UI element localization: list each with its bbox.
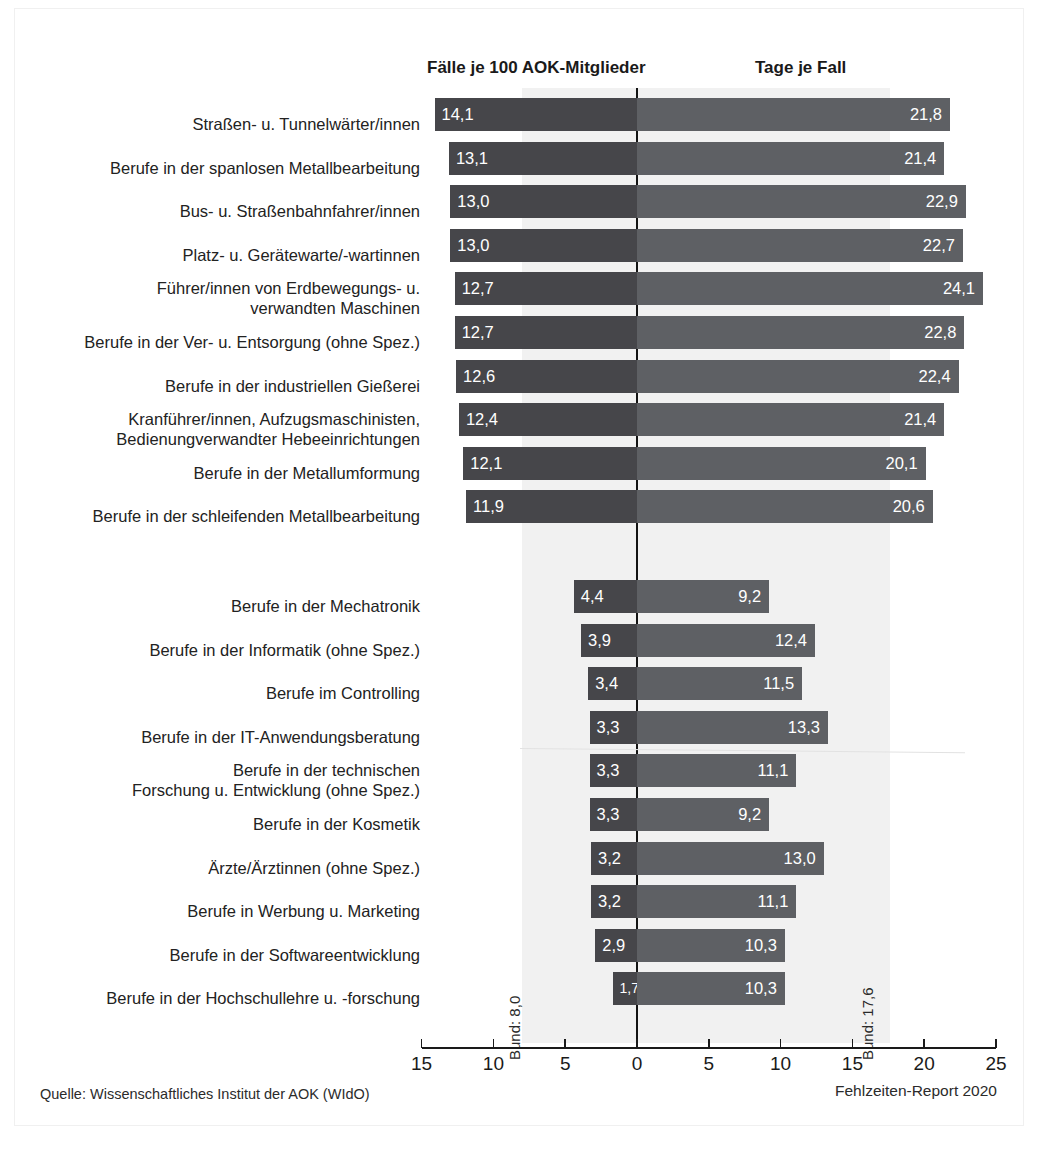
bar-segment-faelle: 12,6 <box>456 360 637 393</box>
row-category-label: Berufe in der technischen Forschung u. E… <box>0 760 420 800</box>
bar-value-tage: 21,4 <box>904 403 936 436</box>
diverging-bar: 3,912,4 <box>581 624 815 657</box>
axis-tick-label: 15 <box>832 1053 872 1075</box>
bar-value-tage: 13,3 <box>788 711 820 744</box>
bar-value-faelle: 3,3 <box>597 711 620 744</box>
diverging-bar: 13,022,7 <box>450 229 963 262</box>
bar-value-tage: 22,9 <box>926 185 958 218</box>
bar-segment-faelle: 3,2 <box>591 842 637 875</box>
bar-segment-faelle: 12,1 <box>463 447 637 480</box>
axis-tick-label: 10 <box>761 1053 801 1075</box>
bar-segment-faelle: 3,3 <box>590 798 637 831</box>
bar-value-tage: 11,1 <box>757 754 788 787</box>
axis-tick-label: 5 <box>689 1053 729 1075</box>
bar-segment-faelle: 3,2 <box>591 885 637 918</box>
bar-value-faelle: 13,1 <box>456 142 488 175</box>
bar-value-faelle: 13,0 <box>457 229 489 262</box>
bar-value-tage: 22,8 <box>924 316 956 349</box>
axis-tick <box>780 1039 782 1048</box>
bar-segment-tage: 22,9 <box>637 185 966 218</box>
row-category-label: Berufe in der schleifenden Metallbearbei… <box>0 506 420 526</box>
bar-value-faelle: 14,1 <box>442 98 474 131</box>
plot-area: Straßen- u. Tunnelwärter/innen14,121,8Be… <box>0 88 1041 1043</box>
bar-value-faelle: 13,0 <box>457 185 489 218</box>
axis-tick <box>421 1039 423 1048</box>
bar-value-faelle: 3,9 <box>588 624 611 657</box>
row-category-label: Ärzte/Ärztinnen (ohne Spez.) <box>0 858 420 878</box>
bar-value-faelle: 12,6 <box>463 360 495 393</box>
axis-tick-label: 5 <box>545 1053 585 1075</box>
diverging-bar: 13,121,4 <box>449 142 944 175</box>
axis-tick <box>636 1039 638 1048</box>
bar-value-tage: 21,8 <box>910 98 942 131</box>
bar-value-tage: 10,3 <box>745 972 777 1005</box>
bar-value-faelle: 11,9 <box>473 490 504 523</box>
bar-value-tage: 20,1 <box>885 447 917 480</box>
bar-value-tage: 20,6 <box>893 490 925 523</box>
axis-tick-label: 25 <box>976 1053 1016 1075</box>
bar-segment-faelle: 13,0 <box>450 185 637 218</box>
row-category-label: Berufe in der Metallumformung <box>0 463 420 483</box>
bar-value-faelle: 3,3 <box>597 798 620 831</box>
row-category-label: Berufe im Controlling <box>0 683 420 703</box>
diverging-bar: 12,622,4 <box>456 360 959 393</box>
diverging-bar: 12,722,8 <box>455 316 965 349</box>
bar-segment-tage: 21,4 <box>637 142 944 175</box>
diverging-bar: 4,49,2 <box>574 580 769 613</box>
row-category-label: Berufe in der Mechatronik <box>0 596 420 616</box>
bar-value-faelle: 12,1 <box>470 447 502 480</box>
diverging-bar: 3,213,0 <box>591 842 824 875</box>
diverging-bar: 12,724,1 <box>455 272 983 305</box>
diverging-bar: 3,313,3 <box>590 711 828 744</box>
bar-segment-tage: 10,3 <box>637 972 785 1005</box>
bar-segment-tage: 21,8 <box>637 98 950 131</box>
bar-segment-tage: 12,4 <box>637 624 815 657</box>
axis-tick <box>708 1039 710 1048</box>
diverging-bar: 13,022,9 <box>450 185 966 218</box>
bar-segment-tage: 13,3 <box>637 711 828 744</box>
row-category-label: Berufe in der Softwareentwicklung <box>0 945 420 965</box>
diverging-bar: 3,211,1 <box>591 885 796 918</box>
bar-segment-faelle: 3,3 <box>590 711 637 744</box>
bar-segment-tage: 22,7 <box>637 229 963 262</box>
bar-value-tage: 22,4 <box>919 360 951 393</box>
bar-value-tage: 11,1 <box>757 885 788 918</box>
bar-segment-tage: 9,2 <box>637 580 769 613</box>
column-header-faelle: Fälle je 100 AOK-Mitglieder <box>427 58 646 78</box>
bar-segment-faelle: 4,4 <box>574 580 637 613</box>
bar-value-faelle: 4,4 <box>581 580 604 613</box>
axis-tick <box>493 1039 495 1048</box>
axis-tick <box>923 1039 925 1048</box>
bar-segment-tage: 9,2 <box>637 798 769 831</box>
diverging-bar: 2,910,3 <box>595 929 785 962</box>
row-category-label: Straßen- u. Tunnelwärter/innen <box>0 114 420 134</box>
diverging-bar: 1,710,3 <box>613 972 785 1005</box>
axis-tick-label: 15 <box>402 1053 442 1075</box>
axis-tick <box>564 1039 566 1048</box>
bar-segment-tage: 20,1 <box>637 447 926 480</box>
axis-tick <box>852 1039 854 1048</box>
bar-value-tage: 22,7 <box>923 229 955 262</box>
row-category-label: Berufe in der Informatik (ohne Spez.) <box>0 640 420 660</box>
row-category-label: Berufe in der Hochschullehre u. -forschu… <box>0 988 420 1008</box>
bar-segment-tage: 11,1 <box>637 885 796 918</box>
bar-value-tage: 21,4 <box>904 142 936 175</box>
bar-segment-tage: 22,8 <box>637 316 964 349</box>
x-axis <box>422 1047 996 1049</box>
bar-segment-faelle: 11,9 <box>466 490 637 523</box>
report-note: Fehlzeiten-Report 2020 <box>835 1082 997 1100</box>
row-category-label: Berufe in der spanlosen Metallbearbeitun… <box>0 158 420 178</box>
bar-value-tage: 12,4 <box>775 624 807 657</box>
bar-segment-tage: 11,5 <box>637 667 802 700</box>
bar-segment-tage: 11,1 <box>637 754 796 787</box>
bar-value-tage: 11,5 <box>763 667 794 700</box>
bar-segment-faelle: 2,9 <box>595 929 637 962</box>
bar-segment-faelle: 12,4 <box>459 403 637 436</box>
bar-segment-tage: 22,4 <box>637 360 959 393</box>
bar-value-tage: 24,1 <box>943 272 975 305</box>
bar-value-tage: 9,2 <box>738 798 761 831</box>
row-category-label: Bus- u. Straßenbahnfahrer/innen <box>0 201 420 221</box>
bar-value-faelle: 12,7 <box>462 272 494 305</box>
bar-segment-faelle: 3,4 <box>588 667 637 700</box>
bar-value-faelle: 3,2 <box>598 885 621 918</box>
